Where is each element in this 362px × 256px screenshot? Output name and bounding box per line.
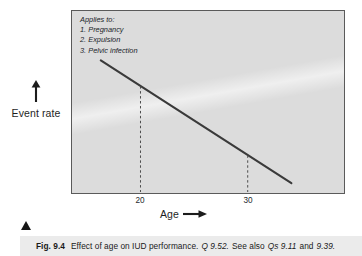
x-axis-tick-label-20: 20 [135,196,144,205]
caption-question-ref-3: 9.39. [316,241,335,251]
y-axis-label: Event rate [2,107,70,119]
triangle-up-icon [21,221,31,230]
annotation-item-2: 2. Expulsion [80,35,138,45]
annotation-item-1: 1. Pregnancy [80,25,138,35]
x-axis-tick-label-30: 30 [243,196,252,205]
figure-caption-text: Fig. 9.4Effect of age on IUD performance… [20,241,335,251]
chart-annotation-block: Applies to: 1. Pregnancy 2. Expulsion 3.… [80,15,138,56]
right-arrow-icon [183,209,207,219]
figure-container: Applies to: 1. Pregnancy 2. Expulsion 3.… [0,0,362,256]
x-axis-label: Age [160,208,179,220]
figure-caption-bar: Fig. 9.4Effect of age on IUD performance… [20,236,362,256]
x-axis-label-group: Age [160,208,207,220]
caption-sentence-3: and [299,241,313,251]
y-axis-label-group: Event rate [2,80,70,119]
trend-line [101,60,292,183]
caption-figure-number: Fig. 9.4 [36,241,65,251]
annotation-title: Applies to: [80,15,138,25]
chart-plot-area: Applies to: 1. Pregnancy 2. Expulsion 3.… [71,10,345,194]
up-arrow-icon [31,80,41,102]
annotation-item-3: 3. Pelvic infection [80,46,138,56]
caption-question-ref-2: Qs 9.11 [268,241,297,251]
caption-sentence-2: See also [232,241,265,251]
caption-sentence-1: Effect of age on IUD performance. [71,241,198,251]
caption-question-ref-1: Q 9.52. [201,241,229,251]
